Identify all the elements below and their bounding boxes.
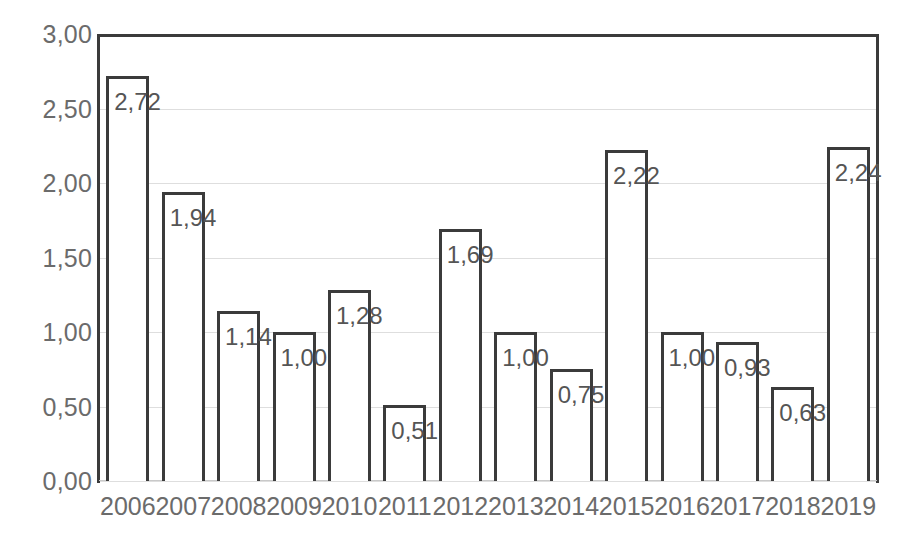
bar-value-label: 2,24 bbox=[835, 159, 882, 187]
bar: 2,72 bbox=[106, 76, 149, 481]
y-axis-tick-label: 1,00 bbox=[0, 318, 92, 347]
x-axis-tick-label: 2008 bbox=[211, 492, 266, 521]
x-axis-tick-label: 2015 bbox=[599, 492, 654, 521]
bar: 1,00 bbox=[494, 332, 537, 481]
y-axis-tick-label: 2,00 bbox=[0, 169, 92, 198]
x-axis-tick-label: 2006 bbox=[100, 492, 155, 521]
bar: 0,63 bbox=[771, 387, 814, 481]
bar-value-label: 1,28 bbox=[336, 302, 383, 330]
bar-value-label: 2,72 bbox=[114, 88, 161, 116]
bar-value-label: 1,14 bbox=[225, 323, 272, 351]
bar-value-label: 1,00 bbox=[281, 344, 328, 372]
bar: 1,00 bbox=[273, 332, 316, 481]
x-axis-tick-label: 2013 bbox=[488, 492, 543, 521]
x-axis-tick-label: 2007 bbox=[155, 492, 210, 521]
x-axis-tick-label: 2019 bbox=[821, 492, 876, 521]
x-axis-tick-label: 2014 bbox=[543, 492, 598, 521]
y-axis: 0,000,501,001,502,002,503,00 bbox=[0, 0, 92, 549]
bar: 0,75 bbox=[550, 369, 593, 481]
bar: 0,93 bbox=[716, 342, 759, 481]
y-axis-tick-label: 1,50 bbox=[0, 243, 92, 272]
bar: 2,22 bbox=[605, 150, 648, 481]
x-axis-tick-label: 2010 bbox=[322, 492, 377, 521]
bar-chart: 0,000,501,001,502,002,503,00 2,721,941,1… bbox=[0, 0, 913, 549]
y-axis-tick-label: 0,00 bbox=[0, 467, 92, 496]
y-axis-tick-label: 2,50 bbox=[0, 94, 92, 123]
gridline bbox=[100, 481, 876, 482]
y-axis-tick-label: 3,00 bbox=[0, 20, 92, 49]
bar: 1,14 bbox=[217, 311, 260, 481]
bar-value-label: 1,69 bbox=[447, 241, 494, 269]
bar-value-label: 1,00 bbox=[502, 344, 549, 372]
bar-value-label: 0,63 bbox=[779, 399, 826, 427]
bar-value-label: 1,94 bbox=[170, 204, 217, 232]
bar-value-label: 1,00 bbox=[669, 344, 716, 372]
y-axis-tick-label: 0,50 bbox=[0, 392, 92, 421]
bar-value-label: 2,22 bbox=[613, 162, 660, 190]
plot-area: 2,721,941,141,001,280,511,691,000,752,22… bbox=[100, 34, 876, 481]
plot-border-right bbox=[876, 34, 879, 483]
x-axis-tick-label: 2016 bbox=[654, 492, 709, 521]
bar: 1,94 bbox=[162, 192, 205, 481]
bar: 2,24 bbox=[827, 147, 870, 481]
x-axis-tick-label: 2018 bbox=[765, 492, 820, 521]
x-axis-tick-label: 2017 bbox=[710, 492, 765, 521]
bar: 1,28 bbox=[328, 290, 371, 481]
bar: 1,69 bbox=[439, 229, 482, 481]
bar: 0,51 bbox=[383, 405, 426, 481]
bar-value-label: 0,75 bbox=[558, 381, 605, 409]
x-axis-tick-label: 2012 bbox=[433, 492, 488, 521]
x-axis-tick-label: 2011 bbox=[377, 492, 432, 521]
bar: 1,00 bbox=[661, 332, 704, 481]
x-axis-tick-label: 2009 bbox=[266, 492, 321, 521]
x-axis: 2006200720082009201020112012201320142015… bbox=[100, 492, 876, 532]
bar-value-label: 0,51 bbox=[391, 417, 438, 445]
bar-value-label: 0,93 bbox=[724, 354, 771, 382]
bars-layer: 2,721,941,141,001,280,511,691,000,752,22… bbox=[100, 34, 876, 481]
